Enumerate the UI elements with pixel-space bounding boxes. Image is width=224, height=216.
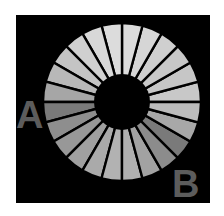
ring-center-hole	[94, 74, 150, 130]
illusion-figure: A B	[0, 0, 224, 216]
label-b: B	[172, 163, 199, 205]
label-a: A	[16, 94, 43, 136]
